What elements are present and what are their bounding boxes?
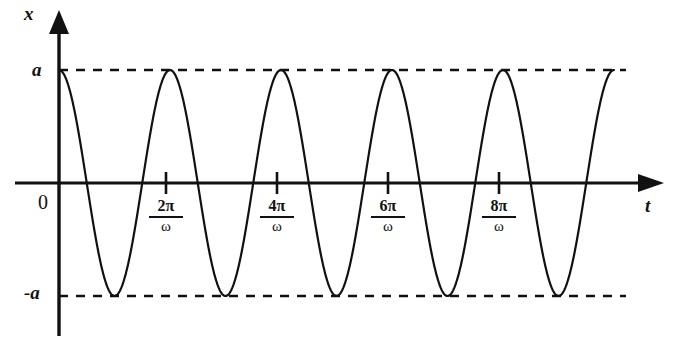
tick-numerator: 8π bbox=[482, 198, 516, 218]
tick-denominator: ω bbox=[469, 218, 529, 235]
graph-canvas bbox=[0, 0, 680, 349]
x-axis-label: t bbox=[645, 196, 650, 215]
tick-denominator: ω bbox=[247, 218, 307, 235]
negative-amplitude-label: -a bbox=[24, 283, 40, 302]
t-axis-arrowhead bbox=[638, 174, 664, 192]
tick-label-8pi-over-omega: 8π ω bbox=[469, 198, 529, 235]
tick-numerator: 2π bbox=[149, 198, 183, 218]
tick-label-6pi-over-omega: 6π ω bbox=[358, 198, 418, 235]
tick-label-4pi-over-omega: 4π ω bbox=[247, 198, 307, 235]
tick-label-2pi-over-omega: 2π ω bbox=[136, 198, 196, 235]
x-axis-arrowhead bbox=[49, 10, 69, 34]
origin-label: 0 bbox=[38, 192, 48, 212]
tick-denominator: ω bbox=[136, 218, 196, 235]
oscillation-graph-figure: x t a 0 -a 2π ω 4π ω 6π ω 8π ω bbox=[0, 0, 680, 349]
tick-numerator: 4π bbox=[260, 198, 294, 218]
tick-denominator: ω bbox=[358, 218, 418, 235]
tick-numerator: 6π bbox=[371, 198, 405, 218]
amplitude-label: a bbox=[32, 60, 42, 79]
y-axis-label: x bbox=[24, 4, 34, 23]
